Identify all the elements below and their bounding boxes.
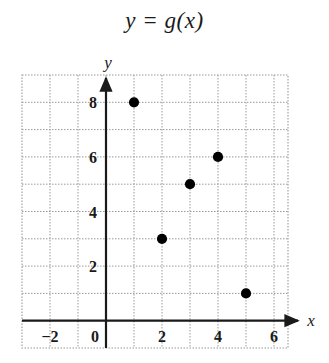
y-tick-label: 8 [89,94,97,111]
graph-figure: y = g(x) −202462468 yx (1, 8)(2, 3)(3, 5… [0,0,329,363]
data-point: (2, 3) [157,234,167,244]
data-point: (4, 6) [213,152,223,162]
x-tick-label: 6 [270,328,278,345]
y-tick-label: 4 [89,204,97,221]
data-point: (1, 8) [129,97,139,107]
data-point: (5, 1) [241,288,251,298]
x-tick-label: 4 [214,328,222,345]
scatter-plot: −202462468 yx (1, 8)(2, 3)(3, 5)(4, 6)(5… [0,0,329,363]
x-tick-label: 2 [158,328,166,345]
x-tick-label: 0 [91,328,99,345]
data-point: (3, 5) [185,179,195,189]
y-axis-label: y [102,53,112,72]
gridlines [22,75,288,348]
x-axis-label: x [306,311,315,330]
y-tick-label: 6 [89,149,97,166]
x-tick-label: −2 [41,328,58,345]
y-tick-label: 2 [89,258,97,275]
